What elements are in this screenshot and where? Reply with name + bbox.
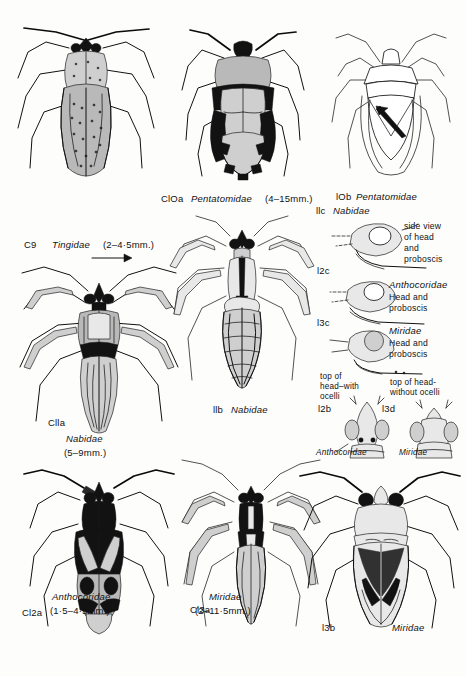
figure-c9-code: C9 <box>24 240 37 251</box>
side-view-note-line3: and <box>404 244 419 254</box>
figure-c11a-family: Nabidae <box>66 434 103 445</box>
figure-c11a-nabidae <box>14 255 184 435</box>
figure-10b-pentatomidae-outline <box>322 18 460 188</box>
figure-10b-code: lOb <box>336 192 351 203</box>
figure-12c-note-line2: proboscis <box>389 304 428 314</box>
figure-13d-note-line1: top of head- <box>390 378 436 387</box>
figure-12b-note-line1: top of <box>320 372 342 381</box>
figure-11b-code: llb <box>213 405 223 416</box>
illustration-plate: C9 Tingidae (2–4·5mm.) <box>0 0 466 676</box>
figure-12c-family: Anthocoridae <box>389 280 447 291</box>
figure-13d-family: Miridae <box>399 448 427 457</box>
figure-c10a-family: Pentatomidae <box>191 194 252 205</box>
figure-c11a-size: (5–9mm.) <box>64 448 106 459</box>
figure-11b-nabidae <box>162 212 322 392</box>
figure-c13a-family: Miridae <box>209 592 242 603</box>
figure-c9-tingidae <box>6 8 166 198</box>
figure-10b-family: Pentatomidae <box>356 192 417 203</box>
figure-12b-note-line2: head–with <box>320 382 359 391</box>
figure-c9-family: Tingidae <box>52 240 90 251</box>
figure-13c-note-line2: proboscis <box>389 350 428 360</box>
figure-c10a-size: (4–15mm.) <box>265 194 313 205</box>
figure-11b-family: Nabidae <box>231 405 268 416</box>
side-view-note-line1: side view <box>404 222 441 232</box>
figure-13b-family: Miridae <box>392 623 425 634</box>
figure-13c-note-line1: Head and <box>389 339 428 349</box>
figure-c10a-code: ClOa <box>161 194 183 205</box>
figure-c11a-code: Clla <box>48 418 65 429</box>
side-view-note-line2: of head <box>404 233 434 243</box>
figure-c12a-family: Anthocoridae <box>52 592 110 603</box>
figure-c12a-code: Cl2a <box>22 608 42 619</box>
figure-c9-size: (2–4·5mm.) <box>103 240 154 251</box>
figure-13b-miridae <box>296 460 462 630</box>
figure-c13a-size: (2–11·5mm.) <box>195 606 251 617</box>
side-view-note-line4: proboscis <box>404 255 443 265</box>
figure-c10a-pentatomidae <box>168 14 318 184</box>
figure-c12a-size: (1·5–4·5mm.) <box>50 606 110 617</box>
figure-13b-code: l3b <box>322 623 335 634</box>
figure-12b-family: Anthocoridae <box>316 448 367 457</box>
figure-12b-code: l2b <box>318 404 331 415</box>
figure-13c-family: Miridae <box>389 326 422 337</box>
figure-12c-note-line1: Head and <box>389 293 428 303</box>
